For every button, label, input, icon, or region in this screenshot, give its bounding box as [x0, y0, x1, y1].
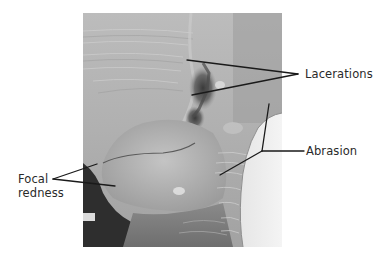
label-abrasion: Abrasion	[306, 144, 357, 158]
label-focal-redness-line2: redness	[18, 186, 64, 200]
photo-rendering	[83, 13, 282, 247]
label-focal-redness: Focal redness	[18, 172, 64, 200]
label-lacerations: Lacerations	[305, 67, 373, 81]
clinical-photograph	[83, 13, 282, 247]
figure: Lacerations Abrasion Focal redness	[0, 0, 379, 258]
label-focal-redness-line1: Focal	[18, 172, 64, 186]
